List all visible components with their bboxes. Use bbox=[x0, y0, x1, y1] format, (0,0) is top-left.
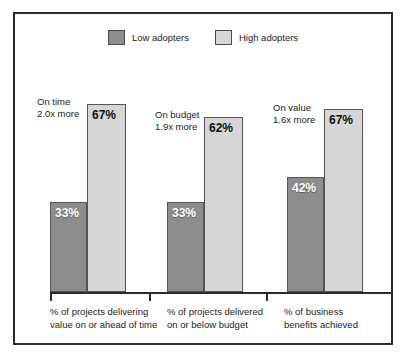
group-annotation-on-budget: On budget 1.9x more bbox=[155, 109, 199, 132]
group-annotation-on-value-line2: 1.6x more bbox=[273, 114, 315, 126]
bar-value-high-adopters-group3: 67% bbox=[329, 113, 353, 127]
group-annotation-on-budget-line2: 1.9x more bbox=[155, 121, 199, 133]
bar-value-low-adopters-group2: 33% bbox=[172, 206, 196, 220]
chart-frame: Low adopters High adopters On time 2.0x … bbox=[13, 12, 393, 345]
axis-tick-divider-1 bbox=[149, 292, 151, 301]
group-annotation-on-budget-line1: On budget bbox=[155, 109, 199, 121]
bar-high-adopters-group1 bbox=[87, 104, 126, 292]
bar-value-high-adopters-group1: 67% bbox=[92, 108, 116, 122]
axis-tick-start bbox=[50, 292, 52, 301]
category-label-group2: % of projects delivered on or below budg… bbox=[167, 306, 263, 331]
group-annotation-on-value-line1: On value bbox=[273, 102, 315, 114]
bar-high-adopters-group3 bbox=[324, 109, 363, 292]
group-annotation-on-time: On time 2.0x more bbox=[37, 96, 79, 119]
group-annotation-on-value: On value 1.6x more bbox=[273, 102, 315, 125]
category-label-group1-line2: value on or ahead of time bbox=[50, 319, 157, 332]
category-label-group2-line1: % of projects delivered bbox=[167, 306, 263, 319]
bar-value-low-adopters-group1: 33% bbox=[55, 206, 79, 220]
category-label-group2-line2: on or below budget bbox=[167, 319, 263, 332]
bar-value-high-adopters-group2: 62% bbox=[209, 121, 233, 135]
category-label-group3-line2: benefits achieved bbox=[284, 319, 358, 332]
axis-tick-divider-2 bbox=[266, 292, 268, 301]
axis-tick-end bbox=[391, 292, 393, 301]
category-label-group3-line1: % of business bbox=[284, 306, 358, 319]
category-label-group1-line1: % of projects delivering bbox=[50, 306, 157, 319]
x-axis-line bbox=[50, 292, 393, 294]
group-annotation-on-time-line2: 2.0x more bbox=[37, 108, 79, 120]
bar-high-adopters-group2 bbox=[204, 117, 243, 292]
bar-value-low-adopters-group3: 42% bbox=[292, 181, 316, 195]
category-label-group1: % of projects delivering value on or ahe… bbox=[50, 306, 157, 331]
group-annotation-on-time-line1: On time bbox=[37, 96, 79, 108]
plot-area: On time 2.0x more 33% 67% On budget 1.9x… bbox=[15, 14, 391, 343]
category-label-group3: % of business benefits achieved bbox=[284, 306, 358, 331]
